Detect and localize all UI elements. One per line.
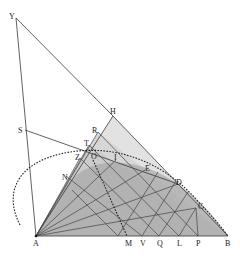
label-T: T xyxy=(84,139,89,148)
label-V: V xyxy=(140,239,146,248)
label-B: B xyxy=(225,239,230,248)
label-I: I xyxy=(114,153,117,162)
geometric-diagram: Y H S R T Z O I N E D C A M V Q L P B xyxy=(0,0,240,259)
label-R: R xyxy=(92,126,98,135)
label-H: H xyxy=(110,107,116,116)
line-Y-H xyxy=(16,18,113,116)
label-O: O xyxy=(91,152,97,161)
label-P: P xyxy=(196,239,201,248)
label-Q: Q xyxy=(157,239,163,248)
label-L: L xyxy=(177,239,182,248)
label-Y: Y xyxy=(9,12,15,21)
label-M: M xyxy=(125,239,132,248)
label-Z: Z xyxy=(75,153,80,162)
label-C: C xyxy=(198,202,203,211)
label-N: N xyxy=(62,173,68,182)
label-E: E xyxy=(145,164,150,173)
label-S: S xyxy=(18,126,22,135)
label-D: D xyxy=(176,178,182,187)
label-A: A xyxy=(33,239,39,248)
point-A-dot xyxy=(35,235,38,238)
